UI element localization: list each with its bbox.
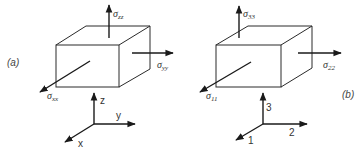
cube-a	[56, 26, 150, 87]
cube-a-top-face	[56, 26, 150, 45]
panel-b: (b) σ33 σ22 σ11 3 2 1	[200, 6, 354, 146]
axis-label-y: y	[116, 110, 121, 121]
stress-label-xx: σxx	[47, 90, 59, 103]
stress-label-33: σ33	[243, 8, 255, 21]
cube-b-top-face	[216, 26, 312, 45]
stress-diagram-svg: (a) σzz σyy σxx z y x (b)	[0, 0, 362, 150]
panel-b-label: (b)	[342, 89, 354, 100]
axes-a: z y x	[65, 93, 135, 149]
stress-label-zz: σzz	[113, 8, 124, 21]
stress-label-22: σ22	[323, 59, 335, 72]
stress-label-yy: σyy	[157, 59, 169, 72]
cube-b	[216, 26, 312, 87]
cube-a-front-face	[56, 45, 119, 87]
stress-cube-figure: (a) σzz σyy σxx z y x (b)	[0, 0, 362, 150]
cube-b-front-face	[216, 45, 281, 87]
axis-label-z: z	[100, 95, 105, 106]
panel-a: (a) σzz σyy σxx z y x	[7, 5, 173, 149]
panel-a-label: (a)	[7, 57, 19, 68]
axis-label-x: x	[78, 138, 83, 149]
axes-b: 3 2 1	[236, 93, 307, 146]
axis-label-1: 1	[248, 135, 254, 146]
axis-label-3: 3	[266, 102, 272, 113]
stress-label-11: σ11	[206, 90, 217, 103]
axis-label-2: 2	[289, 127, 295, 138]
